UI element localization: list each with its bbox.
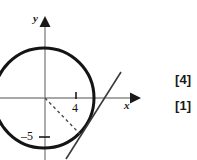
y-axis-arrowhead [40,16,51,27]
y-tick-label-minus-5: –5 [21,129,33,144]
x-axis-label: x [124,99,130,111]
x-tick-label-4: 4 [72,101,78,116]
marks-allocation-first: [4] [175,72,191,87]
circle-tangent-figure: y x 4 –5 [4] [1] [0,0,197,160]
y-axis-label: y [33,12,38,24]
marks-allocation-second: [1] [175,98,191,113]
x-axis-arrowhead [130,93,141,104]
